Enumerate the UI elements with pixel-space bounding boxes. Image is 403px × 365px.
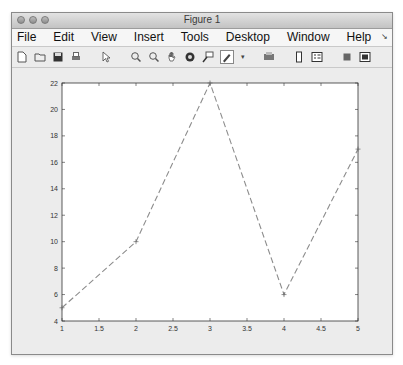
- zoom-out-icon[interactable]: [148, 51, 160, 63]
- hide-plot-tools-icon[interactable]: [341, 51, 353, 63]
- y-tick-label: 8: [54, 265, 58, 272]
- menu-insert[interactable]: Insert: [134, 29, 164, 46]
- y-tick-label: 20: [50, 106, 58, 113]
- insert-legend-icon[interactable]: [311, 51, 323, 63]
- show-plot-tools-icon[interactable]: [359, 51, 371, 63]
- y-tick-label: 14: [50, 185, 58, 192]
- y-tick-label: 22: [50, 80, 58, 87]
- zoom-in-icon[interactable]: [130, 51, 142, 63]
- y-tick-label: 18: [50, 132, 58, 139]
- x-tick-label: 5: [356, 325, 360, 332]
- y-tick-label: 12: [50, 212, 58, 219]
- open-file-icon[interactable]: [34, 51, 46, 63]
- new-figure-icon[interactable]: [16, 51, 28, 63]
- figure-window: Figure 1 File Edit View Insert Tools Des…: [11, 12, 393, 355]
- link-plot-icon[interactable]: [263, 51, 275, 63]
- window-title: Figure 1: [12, 14, 392, 25]
- menu-tools[interactable]: Tools: [181, 29, 209, 46]
- y-tick-label: 4: [54, 318, 58, 325]
- brush-dropdown-icon[interactable]: ▾: [240, 51, 245, 63]
- axes-box: [62, 83, 358, 321]
- x-tick-label: 2.5: [168, 325, 178, 332]
- title-bar[interactable]: Figure 1: [12, 13, 392, 29]
- x-tick-label: 2: [134, 325, 138, 332]
- menu-help[interactable]: Help: [347, 29, 372, 46]
- menu-desktop[interactable]: Desktop: [226, 29, 270, 46]
- y-tick-label: 10: [50, 238, 58, 245]
- x-tick-label: 1: [60, 325, 64, 332]
- pan-hand-icon[interactable]: [166, 51, 178, 63]
- menu-view[interactable]: View: [91, 29, 117, 46]
- data-cursor-icon[interactable]: [202, 51, 214, 63]
- edit-plot-cursor-icon[interactable]: [100, 51, 112, 63]
- y-tick-label: 6: [54, 291, 58, 298]
- menu-window[interactable]: Window: [287, 29, 330, 46]
- x-tick-label: 3.5: [242, 325, 252, 332]
- brush-icon[interactable]: [220, 50, 234, 64]
- print-icon[interactable]: [70, 51, 82, 63]
- line-plot-axes[interactable]: 11.522.533.544.5546810121416182022: [12, 68, 392, 355]
- figure-toolbar: ▾: [12, 47, 392, 68]
- rotate-3d-icon[interactable]: [184, 51, 196, 63]
- x-tick-label: 4.5: [316, 325, 326, 332]
- dock-arrow-icon[interactable]: ↘: [381, 32, 388, 41]
- menu-edit[interactable]: Edit: [53, 29, 74, 46]
- x-tick-label: 1.5: [94, 325, 104, 332]
- figure-canvas: 11.522.533.544.5546810121416182022: [12, 68, 392, 354]
- menu-file[interactable]: File: [17, 29, 36, 46]
- menu-bar: File Edit View Insert Tools Desktop Wind…: [12, 29, 392, 47]
- insert-colorbar-icon[interactable]: [293, 51, 305, 63]
- x-tick-label: 4: [282, 325, 286, 332]
- y-tick-label: 16: [50, 159, 58, 166]
- save-icon[interactable]: [52, 51, 64, 63]
- x-tick-label: 3: [208, 325, 212, 332]
